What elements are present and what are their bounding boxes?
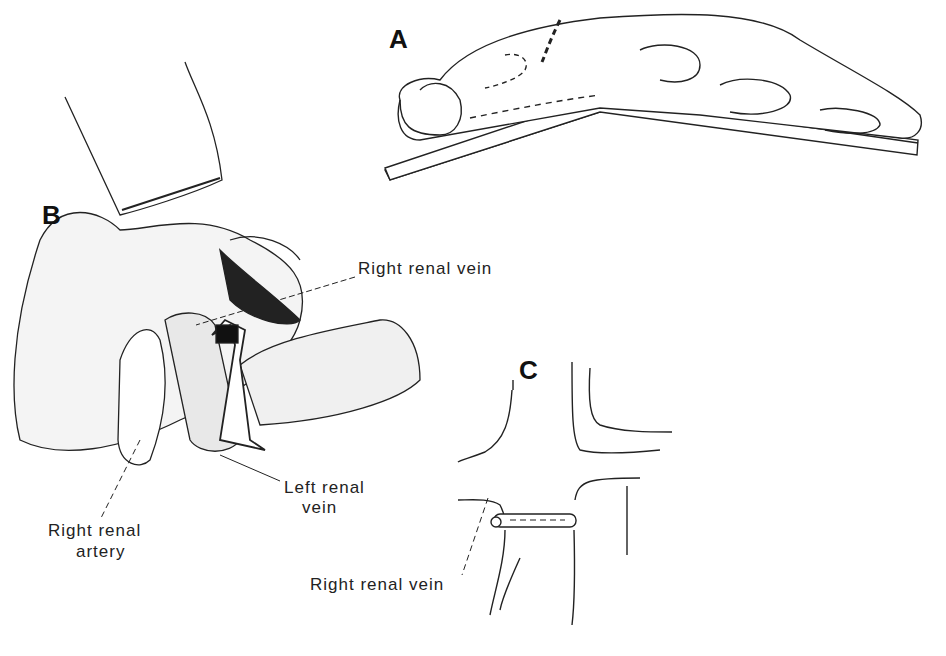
- panel-c-right-renal-vein-band: [458, 362, 672, 625]
- label-right-renal-artery-line2: artery: [76, 542, 125, 562]
- label-right-renal-artery-line1: Right renal: [48, 521, 141, 541]
- panel-a-patient-on-table: [385, 14, 921, 180]
- label-left-renal-vein-line2: vein: [302, 498, 337, 518]
- leader-right-renal-vein-c: [462, 498, 488, 575]
- panel-label-a: A: [389, 24, 408, 55]
- leader-left-renal-vein: [220, 455, 280, 481]
- label-right-renal-vein-b: Right renal vein: [358, 259, 492, 279]
- label-right-renal-vein-c: Right renal vein: [310, 575, 444, 595]
- label-left-renal-vein-line1: Left renal: [284, 478, 365, 498]
- panel-label-b: B: [42, 200, 61, 231]
- illustration: [0, 0, 946, 656]
- panel-label-c: C: [519, 355, 538, 386]
